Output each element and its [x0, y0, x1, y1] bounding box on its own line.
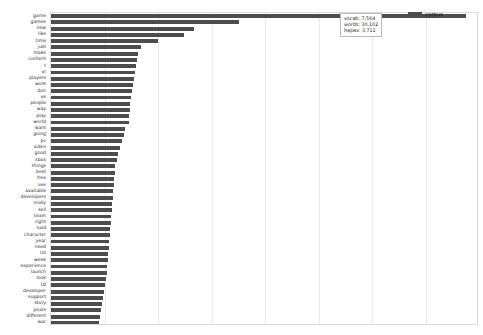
y-axis-tick-labels: gamegamesnewliketimejustmakecontenttvrpl…: [0, 12, 48, 325]
y-tick-label-10: 10: [40, 282, 46, 287]
stats-line-vocab: vocab: 7,564: [344, 16, 378, 22]
bar-t: [51, 64, 136, 68]
bar-need: [51, 246, 109, 250]
y-tick-label-players: players: [29, 75, 46, 80]
y-tick-label-week: week: [34, 257, 46, 262]
bar-sell: [51, 208, 112, 212]
y-tick-label-character: character: [24, 232, 46, 237]
y-tick-label-play: play: [36, 113, 46, 118]
y-tick-label-developers: developers: [21, 194, 46, 199]
y-tick-label-content: content: [28, 56, 46, 61]
y-tick-label-things: things: [32, 163, 46, 168]
bar-games: [51, 20, 239, 24]
bar-developer: [51, 290, 104, 294]
y-tick-label-way: way: [37, 106, 46, 111]
bar-series-corpus: [51, 13, 477, 324]
bar-vr: [51, 71, 135, 75]
bar-years: [51, 308, 101, 312]
bar-week: [51, 258, 108, 262]
y-tick-label-want: want: [35, 125, 46, 130]
bar-content: [51, 58, 137, 62]
y-tick-label-video: video: [33, 144, 46, 149]
y-tick-label-games: games: [31, 19, 46, 24]
y-tick-label-story: story: [34, 300, 46, 305]
bar-play: [51, 114, 129, 118]
y-tick-label-t: t: [44, 63, 46, 68]
y-tick-label-new: new: [37, 25, 47, 30]
y-tick-label-years: years: [33, 307, 46, 312]
bar-world: [51, 121, 129, 125]
bar-new: [51, 27, 194, 31]
y-tick-label-people: people: [30, 100, 46, 105]
y-tick-label-really: really: [33, 200, 46, 205]
y-tick-label-just: just: [38, 44, 46, 49]
y-tick-label-available: available: [25, 188, 46, 193]
bar-video: [51, 146, 120, 150]
y-tick-label-said: said: [37, 225, 46, 230]
legend[interactable]: corpus: [408, 11, 443, 17]
bar-work: [51, 83, 133, 87]
y-tick-label-pc: pc: [41, 138, 46, 143]
bar-things: [51, 164, 115, 168]
y-tick-label-ve: ve: [40, 94, 46, 99]
y-tick-label-sell: sell: [38, 207, 46, 212]
bar-available: [51, 189, 113, 193]
y-tick-label-best: best: [36, 169, 46, 174]
legend-label-corpus: corpus: [425, 11, 443, 17]
bar-year: [51, 240, 109, 244]
y-tick-label-work: work: [35, 81, 46, 86]
bar-really: [51, 202, 112, 206]
bar-free: [51, 177, 114, 181]
bar-10: [51, 283, 105, 287]
y-tick-label-right: right: [35, 219, 46, 224]
corpus-stats-box: vocab: 7,564 words: 30,102 hapax: 3,711: [340, 13, 382, 37]
bar-want: [51, 127, 125, 131]
y-tick-label-year: year: [36, 238, 46, 243]
bar-use: [51, 183, 114, 187]
bar-look: [51, 277, 106, 281]
bar-ve: [51, 96, 131, 100]
y-tick-label-developer: developer: [23, 288, 46, 293]
y-tick-label-lot: lot: [40, 250, 46, 255]
bar-experience: [51, 265, 107, 269]
bar-don: [51, 89, 132, 93]
bar-support: [51, 296, 103, 300]
bar-going: [51, 133, 124, 137]
bar-chart-figure: gamegamesnewliketimejustmakecontenttvrpl…: [0, 0, 483, 335]
y-tick-label-make: make: [33, 50, 46, 55]
y-tick-label-free: free: [37, 175, 46, 180]
stats-line-words: words: 30,102: [344, 22, 378, 28]
y-tick-label-don: don: [37, 88, 46, 93]
stats-line-hapax: hapax: 3,711: [344, 28, 378, 34]
bar-game: [51, 14, 466, 18]
plot-area: [50, 12, 478, 325]
y-tick-label-need: need: [35, 244, 46, 249]
y-tick-label-launch: launch: [31, 269, 46, 274]
bar-people: [51, 102, 130, 106]
bar-developers: [51, 196, 113, 200]
bar-different: [51, 315, 100, 319]
bar-story: [51, 302, 102, 306]
bar-players: [51, 77, 134, 81]
bar-said: [51, 227, 110, 231]
bar-best: [51, 171, 115, 175]
bar-time: [51, 39, 158, 43]
bar-pc: [51, 139, 122, 143]
bar-right: [51, 221, 111, 225]
bar-way: [51, 108, 130, 112]
y-tick-label-world: world: [33, 119, 46, 124]
bar-character: [51, 233, 110, 237]
bar-launch: [51, 271, 107, 275]
y-tick-label-like: like: [38, 31, 46, 36]
y-tick-label-xbox: xbox: [35, 157, 46, 162]
y-tick-label-going: going: [33, 131, 46, 136]
bar-just: [51, 45, 141, 49]
y-tick-label-experience: experience: [21, 263, 46, 268]
bar-team: [51, 215, 111, 219]
y-tick-label-war: war: [38, 319, 46, 324]
bar-like: [51, 33, 184, 37]
y-tick-label-time: time: [36, 38, 46, 43]
y-tick-label-use: use: [38, 182, 46, 187]
bar-xbox: [51, 158, 117, 162]
bar-good: [51, 152, 118, 156]
